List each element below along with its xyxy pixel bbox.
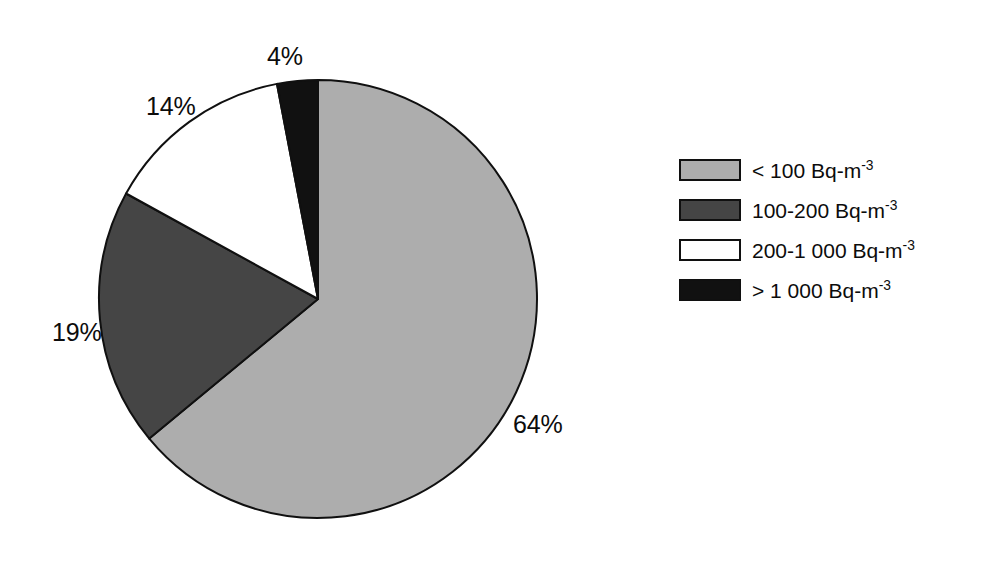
pie-chart-plot-area: 4% 14% 19% 64%	[0, 0, 620, 567]
legend-item: < 100 Bq-m-3	[679, 150, 979, 190]
chart-legend: < 100 Bq-m-3100-200 Bq-m-3200-1 000 Bq-m…	[679, 150, 979, 310]
pie-label-light-gray-slice: 64%	[513, 412, 562, 437]
legend-item-label: 200-1 000 Bq-m-3	[752, 240, 915, 261]
legend-label-text: 100-200 Bq-m	[752, 199, 885, 222]
legend-item-label: < 100 Bq-m-3	[752, 160, 873, 181]
legend-label-text: < 100 Bq-m	[752, 159, 861, 182]
pie-label-dark-gray-slice: 19%	[52, 320, 101, 345]
pie-chart-svg	[0, 0, 620, 567]
legend-label-text: > 1 000 Bq-m	[752, 279, 879, 302]
legend-item: > 1 000 Bq-m-3	[679, 270, 979, 310]
legend-swatch-black	[679, 279, 741, 301]
pie-label-white-slice: 14%	[146, 94, 195, 119]
legend-label-exponent: -3	[903, 237, 915, 253]
pie-chart-figure: 4% 14% 19% 64% < 100 Bq-m-3100-200 Bq-m-…	[0, 0, 985, 567]
legend-item-label: 100-200 Bq-m-3	[752, 200, 897, 221]
pie-slice-group	[99, 80, 537, 518]
legend-label-text: 200-1 000 Bq-m	[752, 239, 903, 262]
pie-label-black-slice: 4%	[267, 44, 303, 69]
legend-item: 200-1 000 Bq-m-3	[679, 230, 979, 270]
legend-label-exponent: -3	[861, 157, 873, 173]
legend-item-label: > 1 000 Bq-m-3	[752, 280, 891, 301]
legend-item: 100-200 Bq-m-3	[679, 190, 979, 230]
legend-label-exponent: -3	[879, 277, 891, 293]
legend-swatch-dark-gray	[679, 199, 741, 221]
legend-label-exponent: -3	[885, 197, 897, 213]
legend-swatch-light-gray	[679, 159, 741, 181]
legend-swatch-white	[679, 239, 741, 261]
